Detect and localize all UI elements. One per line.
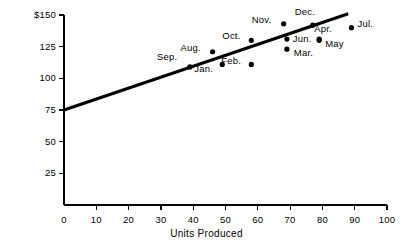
y-tick-label: 100 (40, 72, 56, 83)
y-tick-label: 125 (40, 41, 56, 52)
data-point-label: Feb. (221, 55, 241, 66)
data-point-label: Jan. (194, 63, 213, 74)
data-point-label: Dec. (295, 6, 315, 17)
data-point-label: Sep. (157, 51, 177, 62)
data-point-label: Mar. (294, 47, 313, 58)
data-point-label: May (325, 38, 344, 49)
y-tick-label: 75 (45, 104, 56, 115)
y-tick-label: 50 (45, 136, 56, 147)
trend-line (64, 14, 348, 110)
x-tick-label: 100 (367, 214, 407, 225)
data-point-label: Aug. (181, 42, 201, 53)
data-point-marker (349, 25, 354, 30)
data-point-label: Nov. (252, 14, 272, 25)
data-point-label: Jun. (293, 33, 312, 44)
regression-line (64, 14, 348, 110)
data-point-marker (187, 64, 192, 69)
data-point-marker (284, 47, 289, 52)
x-axis-title: Units Produced (0, 228, 413, 239)
data-point-label: Oct. (222, 30, 240, 41)
y-tick-label: $150 (34, 9, 56, 20)
data-point-marker (210, 49, 215, 54)
y-tick-label: 25 (45, 167, 56, 178)
data-point-marker (249, 62, 254, 67)
data-point-marker (317, 38, 322, 43)
data-point-label: Jul. (357, 18, 373, 29)
plot-area (0, 0, 413, 250)
cost-volume-scatter-chart: 255075100125$1500102030405060708090100Se… (0, 0, 413, 250)
data-point-marker (281, 21, 286, 26)
data-point-label: Apr. (314, 23, 332, 34)
data-point-marker (249, 38, 254, 43)
data-point-marker (284, 36, 289, 41)
